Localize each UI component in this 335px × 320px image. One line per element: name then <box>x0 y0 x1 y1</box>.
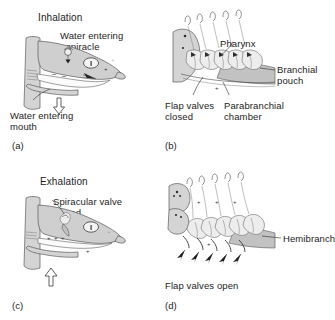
panel-d: + + + + Hemibranch Flap valves open (d) <box>163 160 325 320</box>
svg-text:+: + <box>54 235 58 241</box>
svg-text:+: + <box>197 199 201 205</box>
label-water-entering-mouth-line1: Water entering <box>10 110 73 121</box>
svg-text:–: – <box>62 72 66 79</box>
svg-text:–: – <box>52 70 56 77</box>
label-hemibranch: Hemibranch <box>283 233 335 244</box>
panel-c: Exhalation Spiracular valve closed <box>0 160 163 320</box>
svg-text:٬: ٬ <box>108 231 110 237</box>
label-flap-valves-closed-line2: closed <box>165 111 193 122</box>
label-flap-valves-closed-line1: Flap valves <box>165 100 214 111</box>
roman-numeral-I-c: I <box>90 223 92 232</box>
label-parabranchial-chamber-line1: Parabranchial <box>224 100 284 111</box>
panel-c-illustration: I + + + + ٬ <box>0 160 163 320</box>
svg-text:+: + <box>104 66 108 72</box>
label-water-entering-mouth-line2: mouth <box>10 121 37 132</box>
svg-text:٬: ٬ <box>112 59 114 65</box>
label-branchial-pouch-line1: Branchial <box>277 64 318 75</box>
svg-text:+: + <box>215 199 219 205</box>
svg-text:+: + <box>61 235 65 241</box>
panel-a-id: (a) <box>12 140 24 151</box>
panel-a: Inhalation Water entering spiracle <box>0 0 163 160</box>
svg-text:+: + <box>233 199 237 205</box>
panel-a-illustration: I – – + ٬ <box>0 0 163 160</box>
panel-c-id: (c) <box>12 300 23 311</box>
roman-numeral-I-a: I <box>90 59 92 68</box>
svg-text:+: + <box>47 235 51 241</box>
label-pharynx: Pharynx <box>220 38 256 49</box>
panel-b: + Pharynx Branchial pouch Flap valves cl… <box>163 0 325 160</box>
label-parabranchial-chamber-line2: chamber <box>224 111 262 122</box>
label-branchial-pouch-line2: pouch <box>277 75 303 86</box>
panel-d-id: (d) <box>165 300 177 311</box>
svg-text:+: + <box>207 241 211 247</box>
svg-text:+: + <box>215 85 219 91</box>
panel-b-id: (b) <box>165 140 177 151</box>
label-flap-valves-open: Flap valves open <box>165 280 238 291</box>
svg-text:+: + <box>86 248 90 254</box>
